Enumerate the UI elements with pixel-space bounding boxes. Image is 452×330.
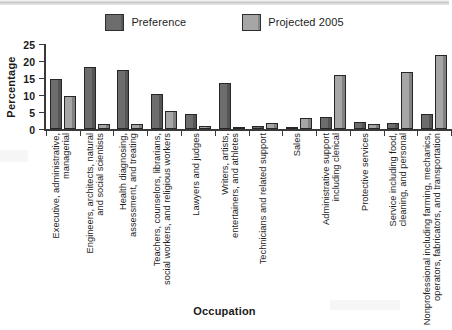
legend-entry-projected-2005: Projected 2005: [242, 14, 343, 31]
x-axis-category-label: Writers, artists,entertainers, and athle…: [219, 133, 240, 238]
bar-group: [147, 44, 181, 129]
bar-group: [316, 44, 350, 129]
bar-preference: [84, 67, 96, 129]
y-tick-label-25: 25: [23, 39, 35, 51]
x-label-cell: Protective services: [348, 133, 382, 301]
bar-group: [80, 44, 114, 129]
bar-preference: [117, 70, 129, 129]
bar-group: [417, 44, 451, 129]
plot-area: 0510152025: [44, 44, 451, 131]
bar-projected-2005: [401, 72, 413, 129]
x-axis-category-label: Engineers, architects, naturaland social…: [84, 133, 105, 253]
bar-preference: [151, 94, 163, 129]
bar-group: [350, 44, 384, 129]
x-axis-category-label: Protective services: [359, 133, 369, 211]
bar-group: [181, 44, 215, 129]
chart-legend: Preference Projected 2005: [0, 12, 449, 32]
y-axis-title: Percentage: [4, 44, 17, 129]
x-label-cell: Technicians and related support: [247, 133, 281, 301]
legend-swatch-preference: [105, 14, 124, 31]
x-axis-title: Occupation: [0, 305, 449, 317]
y-tick-20: 20: [39, 61, 44, 62]
bar-preference: [219, 83, 231, 129]
x-axis-category-label: Service including food,cleaning, and per…: [388, 133, 409, 227]
x-axis-category-label: Sales: [292, 133, 302, 156]
x-axis-category-label: Lawyers and judges: [191, 133, 201, 216]
y-tick-25: 25: [39, 44, 44, 45]
x-axis-labels: Executive, administrative,managerialEngi…: [44, 133, 449, 301]
x-axis-category-label: Executive, administrative,managerial: [50, 133, 71, 238]
bar-group: [215, 44, 249, 129]
x-label-cell: Nonprofessional including farming, mecha…: [415, 133, 449, 301]
x-label-cell: Writers, artists,entertainers, and athle…: [213, 133, 247, 301]
legend-label-preference: Preference: [131, 16, 186, 28]
y-tick-label-20: 20: [23, 56, 35, 68]
y-tick-label-15: 15: [23, 73, 35, 85]
bar-group: [114, 44, 148, 129]
bar-group: [249, 44, 283, 129]
x-label-cell: Health diagnosing,assessment, and treati…: [112, 133, 146, 301]
bar-preference: [421, 114, 433, 129]
x-axis-category-label: Technicians and related support: [258, 133, 268, 264]
x-axis-category-label: Administrative supportincluding clerical: [320, 133, 341, 225]
y-tick-label-0: 0: [29, 124, 35, 136]
x-axis-category-label: Teachers, counselors, librarians,social …: [152, 133, 173, 285]
y-axis-title-text: Percentage: [5, 56, 17, 117]
x-label-cell: Executive, administrative,managerial: [44, 133, 78, 301]
y-tick-0: 0: [39, 129, 44, 130]
x-label-cell: Sales: [280, 133, 314, 301]
bar-preference: [185, 114, 197, 129]
bar-projected-2005: [435, 55, 447, 129]
y-tick-label-10: 10: [23, 90, 35, 102]
bar-projected-2005: [300, 118, 312, 129]
y-tick-label-5: 5: [29, 107, 35, 119]
scan-smudge: [0, 150, 28, 162]
y-tick-15: 15: [39, 78, 44, 79]
y-tick-5: 5: [39, 112, 44, 113]
bar-projected-2005: [64, 96, 76, 129]
x-axis-category-label: Health diagnosing,assessment, and treati…: [118, 133, 139, 237]
bar-projected-2005: [165, 111, 177, 129]
bar-group: [282, 44, 316, 129]
legend-swatch-projected-2005: [242, 14, 261, 31]
bar-preference: [354, 122, 366, 129]
bar-group: [384, 44, 418, 129]
bar-group: [46, 44, 80, 129]
x-label-cell: Lawyers and judges: [179, 133, 213, 301]
bars-layer: [46, 44, 451, 129]
legend-label-projected-2005: Projected 2005: [268, 16, 343, 28]
bar-preference: [50, 79, 62, 129]
bar-preference: [320, 117, 332, 129]
x-label-cell: Engineers, architects, naturaland social…: [78, 133, 112, 301]
x-label-cell: Teachers, counselors, librarians,social …: [145, 133, 179, 301]
x-label-cell: Administrative supportincluding clerical: [314, 133, 348, 301]
legend-entry-preference: Preference: [105, 14, 186, 31]
x-label-cell: Service including food,cleaning, and per…: [382, 133, 416, 301]
bar-projected-2005: [334, 75, 346, 129]
y-tick-10: 10: [39, 95, 44, 96]
x-axis-category-label: Nonprofessional including farming, mecha…: [422, 133, 443, 325]
